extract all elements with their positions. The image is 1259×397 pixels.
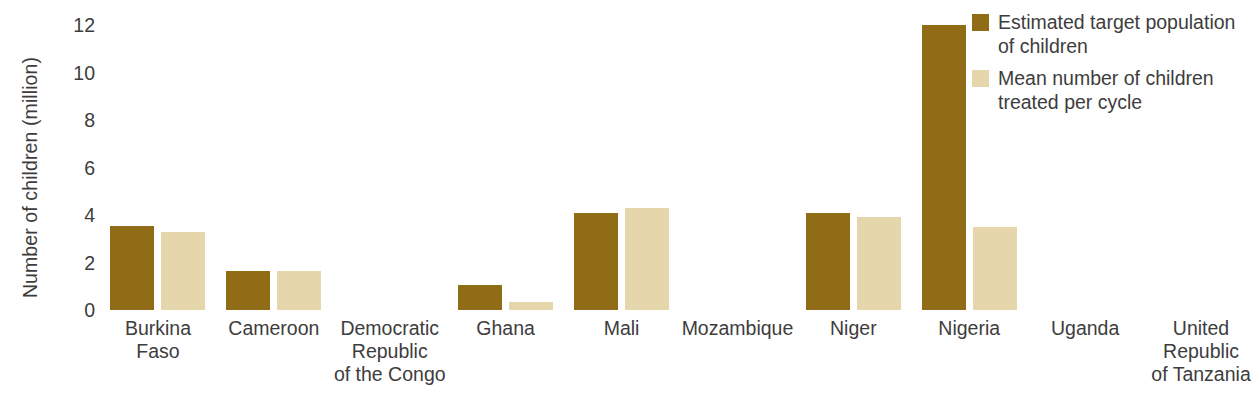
bar-estimated-target-population[interactable] — [458, 285, 502, 310]
bar-mean-treated-per-cycle[interactable] — [625, 208, 669, 310]
bar-pair — [680, 25, 796, 310]
y-axis-tick-label: 6 — [55, 156, 95, 179]
x-axis-tick-label: Niger — [795, 317, 911, 340]
bar-group: Burkina Faso — [100, 25, 216, 310]
bar-pair — [564, 25, 680, 310]
bar-group: Democratic Republic of the Congo — [332, 25, 448, 310]
bar-pair — [216, 25, 332, 310]
x-axis-tick-label: Democratic Republic of the Congo — [332, 317, 448, 386]
bar-pair — [332, 25, 448, 310]
bar-mean-treated-per-cycle[interactable] — [161, 232, 205, 310]
legend-item-label: Mean number of children treated per cycl… — [998, 66, 1214, 114]
bar-pair — [100, 25, 216, 310]
chart-legend: Estimated target population of childrenM… — [972, 10, 1259, 122]
bar-estimated-target-population[interactable] — [574, 213, 618, 310]
y-axis-tick-label: 8 — [55, 109, 95, 132]
x-axis-tick-label: Uganda — [1027, 317, 1143, 340]
bar-mean-treated-per-cycle[interactable] — [509, 302, 553, 310]
bar-estimated-target-population[interactable] — [922, 25, 966, 310]
bar-group: Cameroon — [216, 25, 332, 310]
legend-item-label: Estimated target population of children — [998, 10, 1235, 58]
legend-swatch-dark-icon — [972, 14, 989, 31]
bar-group: Niger — [795, 25, 911, 310]
x-axis-tick-label: Mali — [564, 317, 680, 340]
x-axis-tick-label: Nigeria — [911, 317, 1027, 340]
y-axis-tick-label: 2 — [55, 251, 95, 274]
bar-pair — [795, 25, 911, 310]
y-axis-tick-label: 0 — [55, 299, 95, 322]
y-axis-tick-label: 10 — [55, 61, 95, 84]
chart-figure: Number of children (million) 024681012 B… — [0, 0, 1259, 397]
x-axis-tick-label: Burkina Faso — [100, 317, 216, 363]
bar-group: Ghana — [448, 25, 564, 310]
bar-pair — [448, 25, 564, 310]
x-axis-tick-label: Mozambique — [680, 317, 796, 340]
legend-swatch-light-icon — [972, 70, 989, 87]
x-axis-tick-label: United Republic of Tanzania — [1143, 317, 1259, 386]
y-axis-tick-label: 12 — [55, 14, 95, 37]
bar-estimated-target-population[interactable] — [806, 213, 850, 310]
legend-item[interactable]: Estimated target population of children — [972, 10, 1259, 58]
bar-estimated-target-population[interactable] — [226, 271, 270, 310]
bar-mean-treated-per-cycle[interactable] — [857, 217, 901, 310]
bar-mean-treated-per-cycle[interactable] — [277, 271, 321, 310]
bar-estimated-target-population[interactable] — [110, 226, 154, 310]
bar-group: Mali — [564, 25, 680, 310]
x-axis-tick-label: Ghana — [448, 317, 564, 340]
y-axis-tick-label: 4 — [55, 204, 95, 227]
y-axis-label: Number of children (million) — [19, 28, 42, 328]
x-axis-tick-label: Cameroon — [216, 317, 332, 340]
legend-item[interactable]: Mean number of children treated per cycl… — [972, 66, 1259, 114]
figure-title — [60, 0, 820, 2]
bar-mean-treated-per-cycle[interactable] — [973, 227, 1017, 310]
bar-group: Mozambique — [680, 25, 796, 310]
